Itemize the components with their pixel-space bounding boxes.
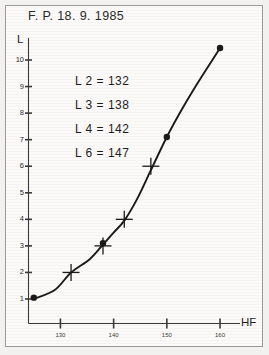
cross-marker: [142, 158, 159, 175]
data-point-layer: [31, 45, 224, 301]
y-tick-label: 3: [8, 241, 24, 250]
y-tick-label: 2: [8, 267, 24, 276]
data-point: [164, 134, 170, 140]
y-tick-label: 1: [8, 294, 24, 303]
x-tick-label: 140: [100, 332, 128, 338]
y-tick-label: 4: [8, 214, 24, 223]
axis-layer: [29, 38, 241, 324]
y-tick-label: 9: [8, 82, 24, 91]
y-tick-label: 7: [8, 135, 24, 144]
curve-layer: [34, 48, 220, 299]
cross-marker-layer: [63, 158, 160, 281]
cross-marker: [116, 211, 133, 228]
y-tick-label: 8: [8, 108, 24, 117]
y-tick-label: 5: [8, 188, 24, 197]
chart-canvas: [0, 0, 269, 355]
x-tick-label: 160: [206, 332, 234, 338]
x-tick-label: 130: [46, 332, 74, 338]
y-tick-label: 6: [8, 161, 24, 170]
data-point: [31, 294, 37, 300]
x-tick-label: 150: [153, 332, 181, 338]
y-tick-label: 10: [8, 55, 24, 64]
data-point: [217, 45, 223, 51]
data-point: [100, 240, 106, 246]
tick-layer: [25, 60, 220, 329]
